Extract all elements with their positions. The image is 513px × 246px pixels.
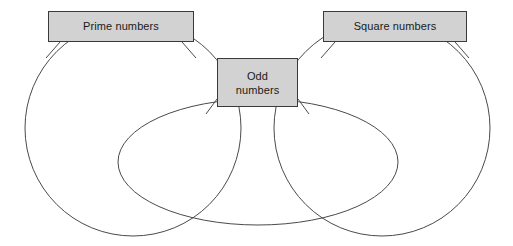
set-label-square-numbers: Square numbers xyxy=(323,11,467,42)
set-circle-prime xyxy=(25,20,241,236)
set-label-odd-numbers: Odd numbers xyxy=(217,58,298,107)
set-label-prime-numbers: Prime numbers xyxy=(48,11,194,42)
leader-line-square-left xyxy=(321,42,335,58)
leader-line-odd-right xyxy=(298,99,309,114)
set-ellipse-odd xyxy=(118,99,398,225)
set-label-square-numbers-text: Square numbers xyxy=(354,20,437,33)
set-circle-square xyxy=(274,20,490,236)
set-label-odd-numbers-text: Odd numbers xyxy=(236,69,280,97)
venn-diagram-canvas: Prime numbers Odd numbers Square numbers xyxy=(0,0,513,246)
leader-line-prime-right xyxy=(182,42,196,58)
leader-line-odd-left xyxy=(206,99,217,114)
set-label-prime-numbers-text: Prime numbers xyxy=(83,20,159,33)
